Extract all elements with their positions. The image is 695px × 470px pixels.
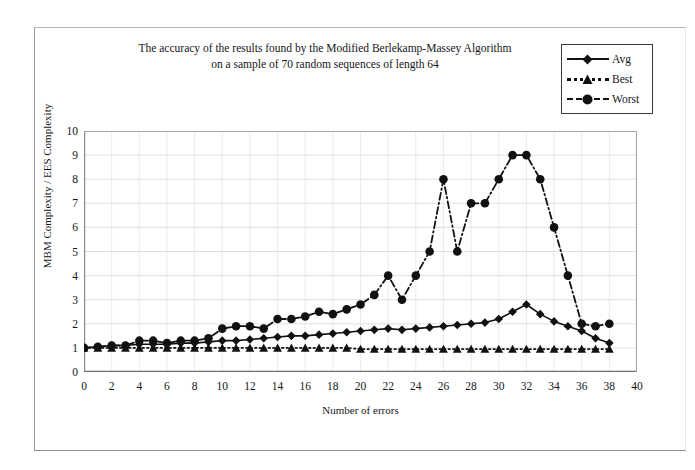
data-point	[577, 327, 586, 336]
plot-area	[84, 131, 637, 372]
data-point	[439, 322, 448, 331]
triangle-marker-icon	[582, 74, 593, 85]
y-tick-label: 6	[52, 222, 78, 232]
data-point	[246, 335, 255, 344]
data-point	[246, 322, 255, 331]
y-tick-label: 2	[52, 319, 78, 329]
data-point	[550, 223, 559, 232]
legend-label-avg: Avg	[609, 53, 631, 65]
data-point	[259, 324, 268, 333]
data-point	[508, 151, 517, 160]
data-point	[453, 247, 462, 256]
x-tick-label: 24	[405, 381, 427, 391]
legend-item-best: Best	[567, 69, 647, 89]
legend-item-worst: Worst	[567, 89, 647, 109]
x-tick-label: 6	[156, 381, 178, 391]
data-point	[591, 334, 600, 343]
x-tick-label: 4	[128, 381, 150, 391]
data-point	[342, 305, 351, 314]
data-point	[425, 247, 434, 256]
y-tick-label: 5	[52, 247, 78, 257]
data-point	[287, 332, 296, 341]
x-tick-label: 32	[515, 381, 537, 391]
y-tick-label: 10	[52, 126, 78, 136]
chart-title-line-1: The accuracy of the results found by the…	[95, 40, 555, 56]
data-point	[481, 318, 490, 327]
data-point	[273, 333, 282, 342]
legend-swatch-best	[567, 72, 609, 86]
data-point	[494, 175, 503, 184]
x-tick-label: 8	[184, 381, 206, 391]
x-tick-label: 26	[432, 381, 454, 391]
data-point	[301, 332, 310, 341]
data-point	[370, 326, 379, 335]
data-point	[384, 324, 393, 333]
x-tick-label: 16	[294, 381, 316, 391]
data-point	[329, 329, 338, 338]
data-point	[550, 317, 559, 326]
circle-marker-icon	[582, 94, 593, 105]
data-point	[370, 291, 379, 300]
y-tick-label: 8	[52, 174, 78, 184]
data-point	[398, 295, 407, 304]
data-point	[329, 310, 338, 319]
data-point	[218, 324, 227, 333]
data-point	[453, 321, 462, 330]
data-point	[564, 271, 573, 280]
x-tick-label: 0	[73, 381, 95, 391]
data-point	[287, 315, 296, 324]
x-tick-label: 34	[543, 381, 565, 391]
data-point	[398, 326, 407, 335]
x-tick-label: 18	[322, 381, 344, 391]
data-point	[259, 334, 268, 343]
legend-label-best: Best	[609, 73, 632, 85]
legend-item-avg: Avg	[567, 49, 647, 69]
legend-label-worst: Worst	[609, 93, 639, 105]
data-point	[232, 322, 241, 331]
x-tick-label: 40	[626, 381, 648, 391]
x-tick-label: 28	[460, 381, 482, 391]
data-point	[412, 271, 421, 280]
data-point	[439, 175, 448, 184]
y-tick-label: 0	[52, 367, 78, 377]
chart-legend: Avg Best Worst	[561, 44, 653, 114]
data-point	[315, 330, 324, 339]
data-point	[301, 312, 310, 321]
data-point	[536, 175, 545, 184]
data-point	[356, 300, 365, 309]
x-tick-label: 20	[350, 381, 372, 391]
chart-title-line-2: on a sample of 70 random sequences of le…	[95, 56, 555, 72]
y-tick-label: 1	[52, 343, 78, 353]
data-point	[591, 322, 600, 331]
x-tick-label: 30	[488, 381, 510, 391]
legend-swatch-worst	[567, 92, 609, 106]
data-point	[467, 320, 476, 329]
x-tick-label: 2	[101, 381, 123, 391]
x-tick-label: 38	[598, 381, 620, 391]
x-tick-label: 12	[239, 381, 261, 391]
data-point	[273, 315, 282, 324]
y-tick-label: 7	[52, 198, 78, 208]
data-point	[481, 199, 490, 208]
y-tick-label: 3	[52, 295, 78, 305]
x-tick-label: 14	[267, 381, 289, 391]
chart-canvas	[84, 131, 637, 372]
data-point	[508, 307, 517, 316]
y-axis-title: MBM Complexity / EES Complexity	[41, 71, 53, 301]
data-point	[384, 271, 393, 280]
y-tick-label: 4	[52, 271, 78, 281]
x-axis-title: Number of errors	[84, 404, 637, 416]
chart-title: The accuracy of the results found by the…	[95, 40, 555, 72]
diamond-marker-icon	[582, 54, 593, 65]
data-point	[564, 322, 573, 331]
x-tick-label: 10	[211, 381, 233, 391]
data-point	[522, 151, 531, 160]
data-point	[356, 327, 365, 336]
data-point	[412, 324, 421, 333]
y-tick-label: 9	[52, 150, 78, 160]
x-tick-label: 36	[571, 381, 593, 391]
data-point	[342, 328, 351, 337]
data-point	[494, 315, 503, 324]
figure-page: The accuracy of the results found by the…	[0, 0, 695, 470]
data-point	[425, 323, 434, 332]
